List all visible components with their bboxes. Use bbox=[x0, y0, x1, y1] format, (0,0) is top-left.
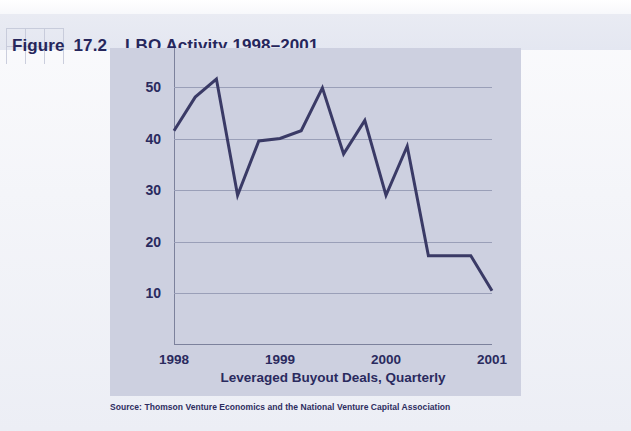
chart-panel: 1020304050 1998199920002001 Leveraged Bu… bbox=[110, 48, 521, 396]
x-tick-label-1999: 1999 bbox=[265, 352, 295, 367]
y-tick-label-40: 40 bbox=[145, 131, 161, 147]
data-series-line bbox=[174, 48, 492, 345]
x-tick-label-2001: 2001 bbox=[477, 352, 507, 367]
x-tick-label-1998: 1998 bbox=[159, 352, 189, 367]
y-tick-label-50: 50 bbox=[145, 79, 161, 95]
y-tick-label-20: 20 bbox=[145, 234, 161, 250]
x-axis-title: Leveraged Buyout Deals, Quarterly bbox=[174, 370, 492, 385]
x-tick-label-2000: 2000 bbox=[371, 352, 401, 367]
figure-title-band: Figure17.2LBO Activity 1998–2001 bbox=[0, 14, 631, 50]
y-tick-label-30: 30 bbox=[145, 182, 161, 198]
figure-label: Figure bbox=[12, 36, 65, 55]
page-top-edge bbox=[0, 0, 631, 14]
plot-area: 1020304050 1998199920002001 bbox=[174, 61, 492, 345]
source-note: Source: Thomson Venture Economics and th… bbox=[110, 402, 450, 412]
figure-number: 17.2 bbox=[74, 36, 108, 55]
figure-container: Figure17.2LBO Activity 1998–2001 1020304… bbox=[0, 0, 631, 431]
y-tick-label-10: 10 bbox=[145, 285, 161, 301]
